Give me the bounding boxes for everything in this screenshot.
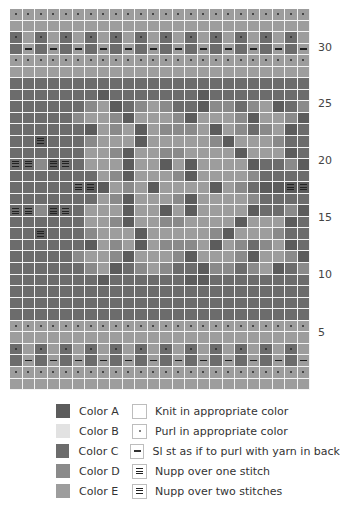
chart-cell (198, 205, 211, 217)
chart-cell (35, 32, 48, 44)
symbol-label: Nupp over two stitches (155, 485, 282, 498)
chart-cell (98, 251, 111, 263)
chart-cell (73, 159, 86, 171)
chart-cell (85, 217, 98, 229)
chart-cell (223, 32, 236, 44)
chart-cell (73, 101, 86, 113)
chart-cell (273, 298, 286, 310)
chart-cell (60, 286, 73, 298)
chart-cell (160, 32, 173, 44)
chart-cell (185, 90, 198, 102)
chart-cell (273, 182, 286, 194)
chart-cell (98, 228, 111, 240)
chart-cell (223, 182, 236, 194)
chart-cell (35, 182, 48, 194)
chart-cell (260, 21, 273, 33)
chart-cell (273, 263, 286, 275)
chart-cell (248, 67, 261, 79)
chart-cell (85, 355, 98, 367)
chart-cell (135, 217, 148, 229)
chart-cell (98, 90, 111, 102)
chart-cell (260, 367, 273, 379)
chart-cell (60, 217, 73, 229)
chart-cell (10, 90, 23, 102)
chart-cell (98, 55, 111, 67)
chart-cell (260, 194, 273, 206)
chart-cell (148, 101, 161, 113)
chart-cell (73, 67, 86, 79)
chart-cell (160, 298, 173, 310)
chart-cell (223, 367, 236, 379)
chart-cell (148, 124, 161, 136)
chart-cell (48, 240, 61, 252)
chart-cell (10, 171, 23, 183)
chart-cell (223, 355, 236, 367)
chart-cell (223, 90, 236, 102)
chart-cell (210, 321, 223, 333)
chart-cell (298, 101, 311, 113)
chart-cell (10, 379, 23, 391)
chart-cell (185, 286, 198, 298)
chart-cell (35, 251, 48, 263)
chart-cell (135, 90, 148, 102)
chart-cell (298, 344, 311, 356)
chart-cell (10, 21, 23, 33)
chart-cell (185, 113, 198, 125)
chart-cell (60, 78, 73, 90)
chart-cell (285, 263, 298, 275)
chart-cell (235, 367, 248, 379)
chart-cell (223, 263, 236, 275)
chart-cell (223, 298, 236, 310)
chart-cell (160, 44, 173, 56)
chart-cell (110, 286, 123, 298)
chart-cell (210, 355, 223, 367)
chart-cell (198, 263, 211, 275)
chart-cell (148, 21, 161, 33)
chart-cell (223, 194, 236, 206)
chart-cell (23, 321, 36, 333)
chart-cell (285, 298, 298, 310)
chart-cell (185, 9, 198, 21)
chart-cell (160, 309, 173, 321)
chart-cell (73, 194, 86, 206)
chart-cell (98, 194, 111, 206)
chart-cell (248, 286, 261, 298)
chart-cell (273, 379, 286, 391)
chart-cell (148, 9, 161, 21)
blank-icon (132, 404, 147, 419)
chart-cell (73, 124, 86, 136)
chart-cell (210, 309, 223, 321)
chart-cell (248, 379, 261, 391)
chart-cell (10, 136, 23, 148)
chart-cell (23, 298, 36, 310)
chart-cell (85, 21, 98, 33)
chart-cell (135, 101, 148, 113)
chart-cell (60, 321, 73, 333)
chart-cell (285, 240, 298, 252)
chart-cell (285, 379, 298, 391)
chart-cell (235, 251, 248, 263)
chart-cell (123, 124, 136, 136)
chart-cell (98, 182, 111, 194)
chart-cell (273, 171, 286, 183)
chart-cell (198, 275, 211, 287)
chart-cell (273, 332, 286, 344)
chart-cell (160, 9, 173, 21)
chart-cell (48, 101, 61, 113)
chart-cell (285, 286, 298, 298)
chart-cell (198, 182, 211, 194)
chart-cell (173, 78, 186, 90)
legend-row: Color E Nupp over two stitches (56, 482, 340, 500)
chart-cell (260, 344, 273, 356)
chart-cell (160, 159, 173, 171)
color-a-swatch (56, 404, 70, 418)
chart-cell (23, 286, 36, 298)
chart-cell (123, 78, 136, 90)
chart-cell (123, 240, 136, 252)
chart-cell (35, 21, 48, 33)
chart-cell (185, 217, 198, 229)
chart-cell (160, 240, 173, 252)
chart-cell (35, 263, 48, 275)
chart-cell (235, 78, 248, 90)
chart-cell (85, 9, 98, 21)
